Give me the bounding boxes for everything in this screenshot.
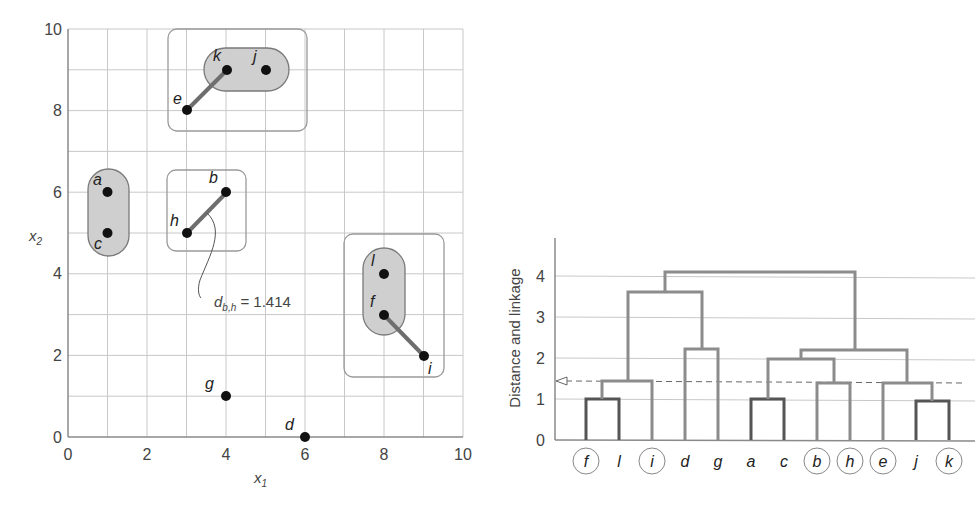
label-l: l (371, 252, 375, 269)
leaf-l: l (617, 453, 621, 470)
x-tick-6: 6 (301, 446, 310, 463)
label-i: i (428, 360, 432, 377)
leaf-i: i (650, 453, 654, 470)
dendro-y-tick-0: 0 (536, 432, 545, 449)
x-tick-8: 8 (380, 446, 389, 463)
dendro-y-axis-label: Distance and linkage (506, 268, 523, 407)
link-h-b (187, 192, 227, 233)
point-g (221, 391, 231, 401)
label-d: d (285, 416, 295, 433)
point-j (261, 65, 271, 75)
point-a (103, 187, 113, 197)
label-c: c (94, 235, 102, 252)
x-axis-label: x1 (253, 469, 267, 489)
y-tick-4: 4 (53, 265, 62, 282)
dendro-y-tick-4: 4 (536, 268, 545, 285)
point-e (182, 105, 192, 115)
leaf-k: k (945, 453, 954, 470)
point-c (103, 228, 113, 238)
y-tick-0: 0 (53, 429, 62, 446)
point-k (222, 65, 232, 75)
x-tick-10: 10 (454, 446, 472, 463)
dendro-leaf-labels: f l i d g a c b h e j k (573, 448, 962, 474)
scatter-plot: 10 8 6 4 2 0 0 2 4 6 8 10 x1 x2 db,h = 1… (28, 21, 472, 489)
annotation-leader (198, 213, 215, 298)
leaf-b: b (813, 453, 822, 470)
point-d (300, 432, 310, 442)
figure: 10 8 6 4 2 0 0 2 4 6 8 10 x1 x2 db,h = 1… (0, 0, 975, 514)
label-e: e (173, 90, 182, 107)
y-axis-label: x2 (28, 227, 43, 247)
dendro-light-links (602, 272, 932, 440)
point-b (221, 187, 231, 197)
dendrogram: 0 1 2 3 4 Distance and linkage (506, 238, 975, 474)
point-h (182, 228, 192, 238)
x-tick-2: 2 (143, 446, 152, 463)
cluster-shade-lf (363, 248, 405, 335)
label-k: k (213, 47, 222, 64)
leaf-d: d (681, 453, 691, 470)
dendro-dark-links (586, 399, 949, 440)
label-h: h (170, 212, 179, 229)
dendrogram-x-axis (555, 440, 975, 441)
y-tick-8: 8 (53, 102, 62, 119)
leaf-a: a (747, 453, 756, 470)
dendro-y-tick-2: 2 (536, 350, 545, 367)
label-b: b (209, 169, 218, 186)
x-tick-4: 4 (222, 446, 231, 463)
dendro-y-tick-1: 1 (536, 391, 545, 408)
leaf-e: e (879, 453, 888, 470)
leaf-j: j (912, 453, 918, 470)
cut-line-arrow-icon (556, 377, 567, 385)
leaf-g: g (714, 453, 723, 470)
leaf-f: f (584, 453, 590, 470)
point-l (379, 269, 389, 279)
y-tick-6: 6 (53, 184, 62, 201)
y-tick-2: 2 (53, 347, 62, 364)
label-g: g (205, 375, 214, 392)
dendro-y-tick-3: 3 (536, 309, 545, 326)
x-tick-0: 0 (64, 446, 73, 463)
label-a: a (93, 171, 102, 188)
y-tick-10: 10 (44, 21, 62, 38)
leaf-h: h (846, 453, 855, 470)
point-f (379, 310, 389, 320)
leaf-c: c (780, 453, 788, 470)
